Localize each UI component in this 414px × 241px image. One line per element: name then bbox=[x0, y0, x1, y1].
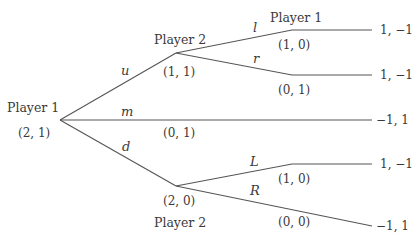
action-r-label: r bbox=[253, 51, 260, 66]
p2-lower-player-label: Player 2 bbox=[154, 215, 206, 230]
R-branch-pair: (0, 0) bbox=[278, 215, 310, 229]
payoff-3: −1, 1 bbox=[376, 113, 409, 127]
payoff-1: 1, −1 bbox=[380, 23, 413, 37]
game-tree-diagram: Player 1 (2, 1) Player 2 (1, 1) Player 1… bbox=[0, 0, 414, 241]
p1-upper-pair: (1, 0) bbox=[278, 38, 310, 52]
p1-upper-player-label: Player 1 bbox=[270, 10, 322, 25]
action-d-label: d bbox=[122, 139, 130, 154]
edge-d bbox=[60, 120, 176, 186]
edge-u bbox=[60, 53, 176, 120]
L-branch-pair: (1, 0) bbox=[278, 172, 310, 186]
action-u-label: u bbox=[121, 63, 129, 78]
p2-upper-player-label: Player 2 bbox=[154, 32, 206, 47]
edge-r bbox=[176, 53, 372, 75]
edge-L bbox=[176, 164, 372, 186]
p2-upper-pair: (1, 1) bbox=[163, 65, 195, 79]
payoff-5: −1, 1 bbox=[376, 219, 409, 233]
m-branch-pair: (0, 1) bbox=[163, 126, 195, 140]
action-L-label: L bbox=[249, 154, 259, 169]
root-pair: (2, 1) bbox=[18, 126, 50, 140]
payoff-2: 1, −1 bbox=[380, 68, 413, 82]
action-R-label: R bbox=[249, 183, 260, 198]
root-player-label: Player 1 bbox=[7, 100, 59, 115]
action-m-label: m bbox=[121, 104, 133, 119]
action-l-label: l bbox=[253, 20, 257, 35]
r-branch-pair: (0, 1) bbox=[278, 83, 310, 97]
payoff-4: 1, −1 bbox=[380, 157, 413, 171]
p2-lower-pair: (2, 0) bbox=[163, 194, 195, 208]
